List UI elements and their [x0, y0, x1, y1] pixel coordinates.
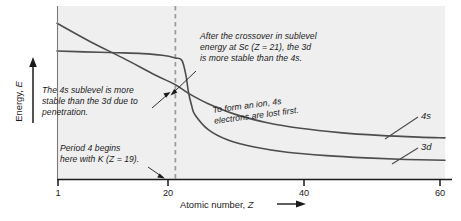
y-axis-title: Energy, E [13, 72, 24, 132]
x-axis-title-text: Atomic number, [180, 199, 245, 210]
curve-label-3d: 3d [421, 141, 431, 152]
y-axis-title-symbol: E [13, 81, 24, 87]
curve-label-4s: 4s [421, 110, 431, 121]
y-axis-title-text: Energy, [13, 90, 24, 122]
annotation-penetration: The 4s sublevel is more stable than the … [42, 85, 162, 119]
y-axis-arrow [29, 57, 37, 123]
x-axis-title-symbol: Z [248, 199, 254, 210]
x-tick-label-40: 40 [294, 188, 314, 198]
x-tick-label-1: 1 [48, 188, 68, 198]
annotation-crossover: After the crossover in sublevel energy a… [200, 31, 375, 65]
x-tick-label-60: 60 [430, 188, 450, 198]
annotation-period-4: Period 4 begins here with K (Z = 19). [60, 143, 170, 165]
figure-energy-vs-atomic-number: After the crossover in sublevel energy a… [0, 0, 461, 221]
x-axis-title: Atomic number, Z [180, 199, 253, 210]
x-axis-arrow [277, 200, 306, 207]
x-tick-label-20: 20 [158, 188, 178, 198]
